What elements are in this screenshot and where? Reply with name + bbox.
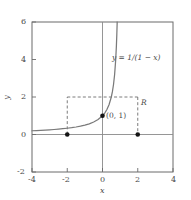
point-0-1: [100, 113, 105, 118]
y-tick-label-0: 0: [21, 130, 26, 139]
y-tick-label-2: 2: [21, 92, 26, 101]
x-tick-label-minus2: -2: [62, 175, 70, 184]
x-axis-title: x: [100, 186, 105, 195]
y-tick-label-minus2: -2: [17, 167, 25, 176]
x-tick-label-0: 0: [100, 175, 105, 184]
y-tick-label-6: 6: [21, 17, 26, 26]
y-tick-marks: [32, 22, 36, 172]
figure-container: 6 4 2 0 -2 -4 -2 0 2 4 y x y = 1/(1 − x)…: [0, 0, 191, 200]
x-tick-label-minus4: -4: [28, 175, 36, 184]
region-label-r: R: [141, 98, 147, 107]
point-label-0-1: (0, 1): [106, 111, 126, 120]
y-tick-label-4: 4: [21, 55, 26, 64]
x-tick-marks: [32, 168, 173, 172]
curve-equation-label: y = 1/(1 − x): [112, 53, 161, 62]
curve-path: [32, 22, 117, 131]
y-axis-title: y: [2, 95, 11, 100]
x-tick-label-4: 4: [171, 175, 176, 184]
point-minus2-0: [65, 132, 70, 137]
x-tick-label-2: 2: [135, 175, 140, 184]
plot-canvas: [0, 0, 191, 200]
point-2-0: [135, 132, 140, 137]
